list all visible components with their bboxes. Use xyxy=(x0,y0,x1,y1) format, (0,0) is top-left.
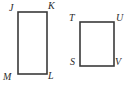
rectangle-tuvs-shape xyxy=(80,22,114,66)
vertex-label-m: M xyxy=(3,72,11,82)
vertex-label-k: K xyxy=(48,1,55,11)
rectangles-svg xyxy=(0,0,130,88)
rectangle-jklm-shape xyxy=(18,12,47,74)
vertex-label-u: U xyxy=(116,13,123,23)
vertex-label-s: S xyxy=(70,57,75,67)
vertex-label-j: J xyxy=(9,3,13,13)
vertex-label-t: T xyxy=(69,13,75,23)
geometry-figure-canvas: J K L M T U V S xyxy=(0,0,130,88)
vertex-label-v: V xyxy=(115,57,121,67)
vertex-label-l: L xyxy=(48,71,54,81)
